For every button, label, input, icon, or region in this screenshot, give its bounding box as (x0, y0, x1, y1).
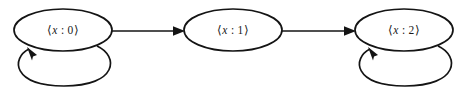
node-state-1[interactable]: ⟨x : 1⟩ (184, 9, 282, 51)
self-loop-state-0 (18, 46, 110, 86)
node-state-2-close-bracket: ⟩ (415, 24, 420, 36)
node-state-2[interactable]: ⟨x : 2⟩ (355, 9, 453, 51)
node-state-1-label: ⟨x : 1⟩ (217, 24, 249, 36)
node-state-0-label: ⟨x : 0⟩ (47, 24, 79, 36)
edge-state0-to-state1 (112, 26, 185, 36)
node-state-2-separator: : (399, 24, 409, 36)
node-state-1-close-bracket: ⟩ (244, 24, 249, 36)
node-state-1-separator: : (228, 24, 238, 36)
node-state-2-label: ⟨x : 2⟩ (388, 24, 420, 36)
edge-state1-to-state2 (282, 26, 356, 36)
self-loop-state-2-arrowhead (368, 47, 378, 61)
node-state-0[interactable]: ⟨x : 0⟩ (14, 9, 112, 51)
node-state-0-close-bracket: ⟩ (74, 24, 79, 36)
state-transition-diagram: ⟨x : 0⟩ ⟨x : 1⟩ ⟨x : 2⟩ (0, 0, 463, 91)
node-state-0-separator: : (58, 24, 68, 36)
state-graph-canvas: ⟨x : 0⟩ ⟨x : 1⟩ ⟨x : 2⟩ (0, 0, 463, 91)
self-loop-state-0-arrowhead (27, 47, 37, 61)
self-loop-state-2 (359, 46, 451, 86)
